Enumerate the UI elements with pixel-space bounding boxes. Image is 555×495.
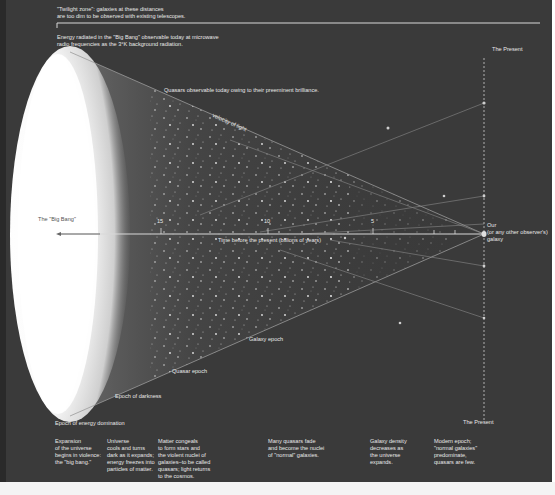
present-bottom-label: The Present	[463, 419, 493, 426]
big-bang-label: The "Big Bang"	[38, 216, 76, 223]
energy-radiated-label: Energy radiated in the "Big Bang" observ…	[57, 34, 219, 48]
caption-quasars-fade: Many quasars fade and become the nuclei …	[268, 438, 324, 459]
epoch-darkness-label: Epoch of darkness	[115, 393, 161, 400]
tick-label-10: 10	[264, 218, 270, 225]
caption-universe-cools: Universe cools and turns dark as it expa…	[107, 438, 155, 473]
page-margin	[0, 482, 555, 495]
quasar-epoch-label: Quasar epoch	[172, 368, 207, 375]
galaxy-epoch-label: Galaxy epoch	[249, 336, 283, 343]
our-galaxy-label: Our (or any other observer's) galaxy	[487, 222, 548, 243]
tick-label-15: 15	[157, 218, 163, 225]
caption-matter-congeals: Matter congeals to form stars and the vi…	[158, 438, 210, 480]
present-top-label: The Present	[492, 46, 522, 53]
our-galaxy-marker	[482, 231, 487, 237]
twilight-bracket	[57, 23, 540, 28]
epoch-energy-label: Epoch of energy domination	[55, 420, 125, 427]
caption-big-bang: Expansion of the universe begins in viol…	[55, 438, 101, 466]
cosmic-history-diagram: "Twilight zone": galaxies at these dista…	[0, 0, 552, 482]
quasars-observable-label: Quasars observable today owing to their …	[164, 87, 319, 94]
caption-galaxy-density: Galaxy density decreases as the universe…	[370, 438, 407, 466]
tick-label-5: 5	[371, 218, 374, 225]
time-axis-label: Time before the present (billions of yea…	[218, 237, 321, 244]
twilight-zone-label: "Twilight zone": galaxies at these dista…	[57, 6, 185, 20]
caption-modern-epoch: Modern epoch; "normal galaxies" predomin…	[434, 438, 477, 466]
